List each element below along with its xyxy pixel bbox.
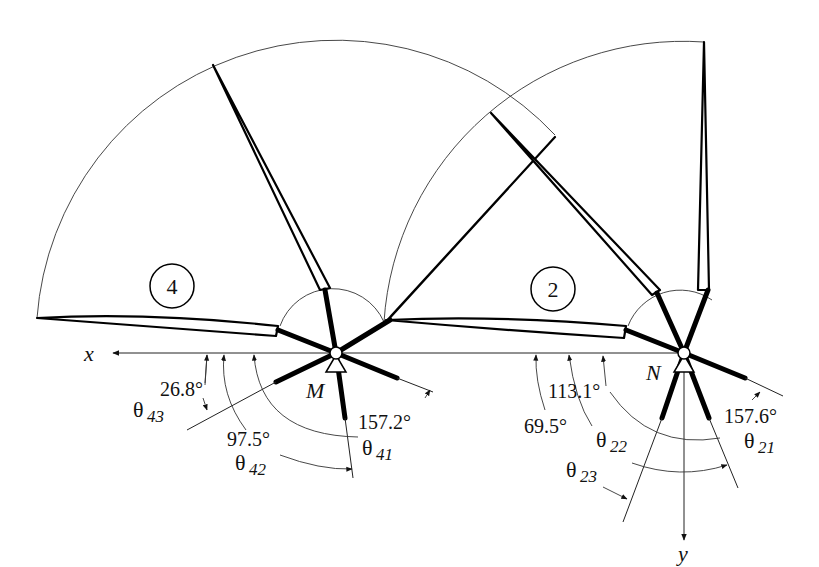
sweep-arc-4 — [37, 40, 555, 318]
svg-text:2: 2 — [548, 277, 559, 302]
blade-n-left — [386, 318, 684, 353]
ref-line-n-21 — [745, 378, 783, 396]
angle-arc-theta23 — [536, 355, 545, 410]
angle-value-theta41: 157.2° — [358, 411, 411, 433]
ref-line-m-41 — [397, 378, 433, 392]
svg-text:θ: θ — [744, 428, 755, 453]
arm-m-lower-right — [336, 353, 397, 378]
region-label-4: 4 — [150, 264, 194, 308]
svg-text:θ: θ — [133, 397, 144, 422]
blade-m-left — [37, 316, 336, 353]
svg-text:43: 43 — [147, 407, 164, 426]
svg-text:θ: θ — [235, 450, 246, 475]
svg-text:4: 4 — [167, 274, 178, 299]
svg-text:22: 22 — [610, 437, 628, 456]
svg-text:42: 42 — [249, 460, 267, 479]
angle-symbol-theta42: θ 42 — [235, 450, 267, 479]
pivot-label-n: N — [645, 360, 662, 385]
blade-n-vertical — [684, 42, 709, 353]
svg-text:θ: θ — [596, 427, 607, 452]
angle-symbol-theta41: θ 41 — [362, 435, 393, 464]
angle-value-theta42: 97.5° — [227, 428, 270, 450]
svg-text:θ: θ — [362, 435, 373, 460]
folding-mechanism-diagram: 4 2 x y M N 26.8° θ 43 97.5° θ 42 157.2°… — [0, 0, 819, 567]
angle-symbol-theta43: θ 43 — [133, 397, 164, 426]
angle-value-theta43: 26.8° — [160, 378, 203, 400]
angle-symbol-theta22: θ 22 — [596, 427, 628, 456]
svg-text:41: 41 — [376, 445, 393, 464]
angle-arc-theta42 — [223, 355, 246, 430]
angle-value-theta23: 69.5° — [524, 415, 567, 437]
svg-text:θ: θ — [566, 457, 577, 482]
angle-symbol-theta23: θ 23 — [566, 457, 597, 486]
angle-value-theta22: 113.1° — [548, 380, 600, 402]
pivot-label-m: M — [305, 378, 326, 403]
region-label-2: 2 — [531, 267, 575, 311]
y-axis-label: y — [676, 541, 688, 566]
svg-text:23: 23 — [580, 467, 597, 486]
angle-symbol-theta21: θ 21 — [744, 428, 775, 457]
ref-line-n-22 — [709, 418, 738, 488]
x-axis-label: x — [83, 341, 94, 366]
angle-value-theta21: 157.6° — [724, 405, 777, 427]
ref-line-n-23 — [623, 418, 662, 522]
blade-m-upper — [213, 65, 336, 353]
svg-text:21: 21 — [758, 438, 775, 457]
blade-n-diagonal — [491, 113, 684, 353]
